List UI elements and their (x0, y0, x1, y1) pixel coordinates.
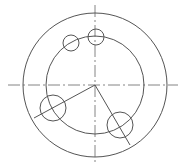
radial-lines-group (34, 85, 130, 145)
upper-left-hole (63, 35, 79, 51)
holes-group (40, 29, 133, 138)
technical-drawing (0, 0, 183, 168)
lower-right-hole (107, 112, 133, 138)
drawing-canvas (0, 0, 183, 168)
top-hole (88, 29, 104, 45)
